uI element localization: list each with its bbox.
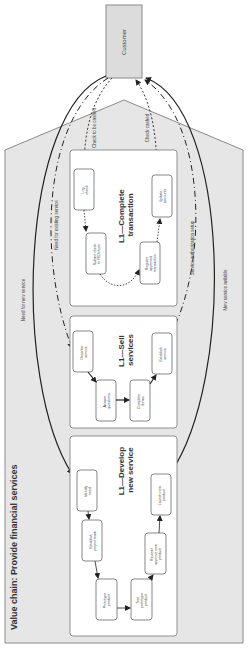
check-to-be-cashed-label: Check to be cashed: [92, 108, 97, 148]
svg-text:Prototype product: Prototype product: [103, 592, 111, 608]
new-service-available-label: New service avilable: [223, 269, 228, 311]
svg-text:Establish service: Establish service: [159, 346, 167, 362]
value-chain-diagram: Customer Need for new service Need for e…: [0, 0, 249, 661]
need-for-existing-service-label: Need for existing service: [54, 200, 59, 250]
need-for-new-service-label: Need for new service: [21, 278, 26, 321]
panel-sell-services: L1—Sell services Describe service Answer…: [70, 316, 177, 428]
svg-text:Update accounts: Update accounts: [159, 189, 167, 204]
panel-develop-new-service: L1—Develop new service Identify need Est…: [70, 436, 177, 636]
panel-heading: L1—Develop new service: [117, 445, 135, 496]
svg-text:Answer questions: Answer questions: [103, 393, 111, 409]
panel-complete-transaction: L1—Complete transaction Log check Submit…: [70, 150, 177, 306]
svg-text:Register approved: Register approved transaction: [145, 254, 157, 272]
svg-text:Describe service: Describe service: [80, 344, 88, 359]
check-cashed-label: Check cashed: [145, 113, 150, 142]
customer-label: Customer: [121, 29, 127, 55]
panel-heading: L1—Sell services: [117, 333, 135, 367]
service-authorization-setup-label: Service authorization setup: [190, 220, 195, 275]
value-chain-title: Value chain: Provide financial services: [9, 464, 19, 630]
panel-heading: L1—Complete transaction: [117, 187, 135, 243]
svg-text:Establish project team: Establish project team: [89, 531, 97, 551]
svg-text:Submit check to FEDchurn: Submit check to FEDchurn: [93, 243, 101, 266]
svg-text:Log check: Log check: [81, 185, 89, 195]
